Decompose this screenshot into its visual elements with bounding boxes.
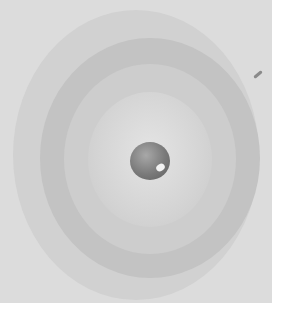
center-sphere	[130, 142, 170, 180]
photograph	[0, 0, 272, 303]
edge-mark	[253, 70, 263, 79]
